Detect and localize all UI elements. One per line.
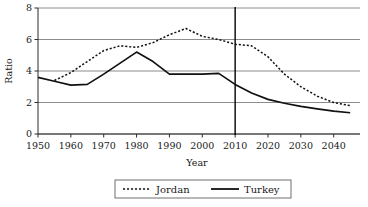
x-tick-label: 1990 [157, 140, 181, 151]
x-tick-label: 1950 [26, 140, 50, 151]
series-line-jordan [54, 28, 350, 105]
x-axis-title: Year [185, 157, 208, 168]
x-tick-label: 1960 [59, 140, 83, 151]
x-tick-label: 2040 [322, 140, 346, 151]
y-tick-label: 0 [26, 128, 32, 139]
chart-figure: 0246819501960197019801990200020102020203… [0, 0, 368, 207]
x-tick-label: 2010 [223, 140, 247, 151]
series-line-turkey [38, 52, 350, 113]
ratio-line-chart: 0246819501960197019801990200020102020203… [0, 0, 368, 207]
x-tick-label: 2000 [190, 140, 214, 151]
x-tick-label: 1970 [92, 140, 116, 151]
y-tick-label: 6 [26, 34, 32, 45]
x-tick-label: 1980 [124, 140, 148, 151]
y-tick-label: 4 [26, 65, 32, 76]
x-tick-label: 2030 [289, 140, 313, 151]
y-tick-label: 8 [26, 2, 32, 13]
legend-label-turkey: Turkey [244, 184, 280, 195]
y-axis-title: Ratio [3, 58, 14, 84]
legend-label-jordan: Jordan [155, 184, 190, 195]
y-tick-label: 2 [26, 97, 32, 108]
x-tick-label: 2020 [256, 140, 280, 151]
